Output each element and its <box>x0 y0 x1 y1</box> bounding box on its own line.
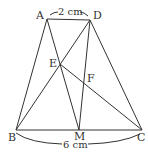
segment-DC <box>90 20 142 130</box>
dimension-arc-bottom-left <box>16 133 62 144</box>
dimension-top: 2 cm <box>58 6 83 17</box>
label-F: F <box>87 72 95 85</box>
dimension-arc-top <box>50 12 58 15</box>
segment-AM <box>47 19 79 130</box>
segment-AD <box>47 19 90 20</box>
segment-EC <box>60 64 142 130</box>
dimension-arc-bottom-right <box>88 134 140 144</box>
label-C: C <box>137 131 145 144</box>
dimension-bottom: 6 cm <box>63 139 88 150</box>
label-E: E <box>49 57 57 70</box>
segment-AB <box>16 19 47 130</box>
label-A: A <box>35 9 45 22</box>
segment-DB <box>16 20 90 130</box>
label-D: D <box>93 9 102 22</box>
label-B: B <box>8 131 16 144</box>
trapezoid-diagram: A D B C M E F 2 cm 6 cm <box>0 0 148 152</box>
